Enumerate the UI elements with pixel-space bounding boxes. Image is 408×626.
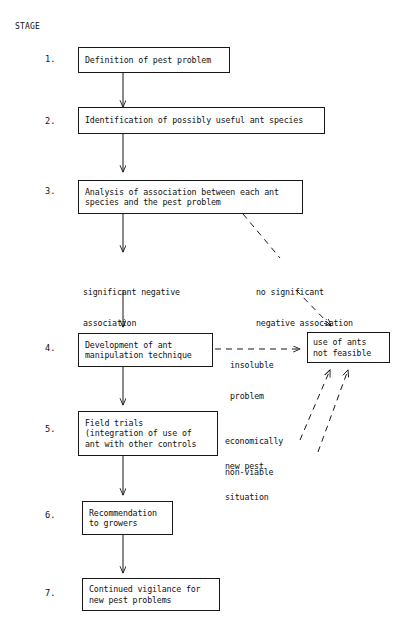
node-stage-7[interactable]: Continued vigilance for new pest problem… [82,578,220,611]
node-stage-6[interactable]: Recommendation to growers [82,501,173,535]
stage-number-1: 1. [45,54,55,64]
stage-number-6: 6. [45,510,55,520]
node-stage-6-line-2: to growers [89,518,166,528]
stage-number-4: 4. [45,343,55,353]
edge-label-newpest-line-1: new pest [225,461,269,471]
node-stage-4-line-2: manipulation technique [85,350,206,360]
connector-stage3-terminal-upper [243,214,280,258]
node-stage-3-line-1: Analysis of association between each ant [85,187,296,197]
flowchart-page: STAGE 1. 2. 3. 4. 5. 6. 7. Definition of… [0,0,408,626]
node-stage-5[interactable]: Field trials (integration of use of ant … [78,411,218,456]
node-stage-1[interactable]: Definition of pest problem [78,47,230,73]
node-stage-2-line-1: Identification of possibly useful ant sp… [85,115,318,125]
edge-label-no-significant-line-2: negative association [256,318,353,328]
node-stage-6-line-1: Recommendation [89,508,166,518]
edge-label-no-significant-line-1: no significant [256,287,353,297]
edge-label-insoluble-line-1: insoluble [230,360,274,370]
edge-label-insoluble-problem: insoluble problem [230,339,274,422]
connector-stage5-terminal-newpest [318,370,348,452]
edge-label-significant-line-1: significant negative [83,287,180,297]
stage-number-7: 7. [45,588,55,598]
node-stage-7-line-2: new pest problems [89,595,213,605]
connector-stage5-terminal-economic [300,370,330,440]
node-stage-5-line-3: ant with other controls [85,439,211,449]
stage-number-5: 5. [45,424,55,434]
edge-label-newpest-line-2: situation [225,492,269,502]
node-stage-3[interactable]: Analysis of association between each ant… [78,180,303,214]
node-stage-5-line-2: (integration of use of [85,428,211,438]
stage-column-header: STAGE [15,22,40,31]
edge-label-insoluble-line-2: problem [230,391,274,401]
edge-label-significant-line-2: association [83,318,180,328]
node-stage-7-line-1: Continued vigilance for [89,584,213,594]
edge-label-no-significant-negative-association: no significant negative association [256,266,353,349]
stage-number-3: 3. [45,186,55,196]
node-stage-1-line-1: Definition of pest problem [85,55,223,65]
stage-number-2: 2. [45,116,55,126]
node-stage-2[interactable]: Identification of possibly useful ant sp… [78,107,325,134]
node-stage-5-line-1: Field trials [85,418,211,428]
edge-label-significant-negative-association: significant negative association [83,266,180,349]
node-stage-3-line-2: species and the pest problem [85,197,296,207]
edge-label-new-pest-situation: new pest situation [225,440,269,523]
